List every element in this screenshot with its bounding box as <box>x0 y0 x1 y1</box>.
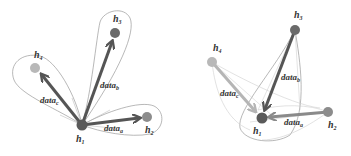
label-h3-right: h3 <box>294 9 303 21</box>
label-data-a-right: dataa <box>284 117 303 128</box>
right-diagram: h1 h2 h3 h4 dataa datab datac <box>207 9 337 141</box>
label-data-b-right: datab <box>281 72 300 83</box>
diagram-canvas: h1 h2 h3 h4 dataa datab datac <box>0 0 351 156</box>
label-h1-left: h1 <box>76 133 85 145</box>
diagram-stage: h1 h2 h3 h4 dataa datab datac <box>0 0 351 156</box>
node-h3-left <box>110 28 120 38</box>
thin-lines <box>212 30 328 122</box>
boundary-h1-h4 <box>13 55 82 125</box>
arrow-h3-h1 <box>265 30 295 109</box>
label-h2-left: h2 <box>145 124 154 136</box>
label-data-a-left: dataa <box>104 123 123 134</box>
label-h2-right: h2 <box>328 119 337 131</box>
left-diagram: h1 h2 h3 h4 dataa datab datac <box>13 11 162 145</box>
arrow-h4-h1 <box>212 62 255 111</box>
node-h4-left <box>30 63 40 73</box>
label-h4-right: h4 <box>213 42 222 54</box>
label-h1-right: h1 <box>253 125 262 137</box>
node-h1-right <box>257 113 268 124</box>
node-h1-left <box>77 120 88 131</box>
node-h2-right <box>323 107 333 117</box>
node-h4-right <box>207 57 217 67</box>
node-h2-left <box>142 112 152 122</box>
node-h3-right <box>290 25 300 35</box>
label-h3-left: h3 <box>113 13 122 25</box>
label-data-b-left: datab <box>100 80 119 91</box>
label-data-c-left: datac <box>40 95 59 106</box>
label-h4-left: h4 <box>34 49 43 61</box>
